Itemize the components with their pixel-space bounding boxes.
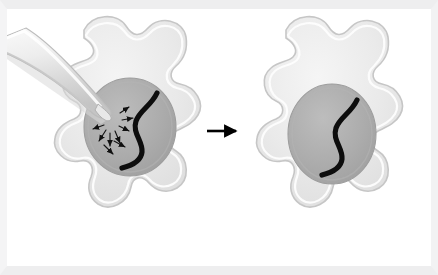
microinjection-illustration [0, 0, 438, 275]
panel-before [0, 17, 200, 207]
panel-after [257, 17, 403, 207]
figure-canvas: Microinjection into an amoeba cell nucle… [0, 0, 438, 275]
